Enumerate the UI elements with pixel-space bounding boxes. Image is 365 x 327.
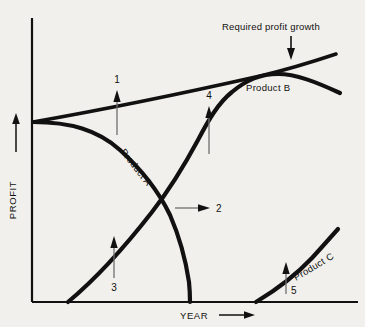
- required-profit-growth-pointer-icon: [287, 36, 295, 60]
- annotation-3: 3: [110, 236, 117, 293]
- x-axis-label: YEAR: [180, 310, 208, 321]
- annotation-5-arrowhead: [282, 262, 289, 274]
- product-b-label: Product B: [246, 82, 290, 93]
- annotation-4-arrowhead: [205, 106, 212, 118]
- product-lifecycle-profit-chart: PROFIT YEAR 1 4 2: [0, 0, 365, 327]
- annotation-3-arrowhead: [110, 236, 117, 248]
- series-product-c-curve: [256, 229, 338, 302]
- annotation-2-label: 2: [216, 203, 222, 214]
- annotation-1-label: 1: [114, 74, 120, 85]
- product-a-label: Product A: [118, 146, 154, 188]
- annotation-4-label: 4: [206, 90, 212, 101]
- x-axis-arrow-icon: [219, 311, 255, 319]
- annotation-2-arrowhead: [198, 204, 210, 211]
- required-profit-growth-label: Required profit growth: [222, 21, 320, 32]
- y-axis-arrow-icon: [12, 113, 20, 152]
- y-axis-label: PROFIT: [7, 181, 18, 219]
- series-product-a-curve: [33, 122, 190, 302]
- annotation-1-arrowhead: [113, 90, 120, 102]
- series-required-profit-growth-line: [33, 54, 336, 122]
- annotation-2: 2: [175, 203, 222, 214]
- annotation-3-label: 3: [111, 282, 117, 293]
- annotation-5-label: 5: [291, 285, 297, 296]
